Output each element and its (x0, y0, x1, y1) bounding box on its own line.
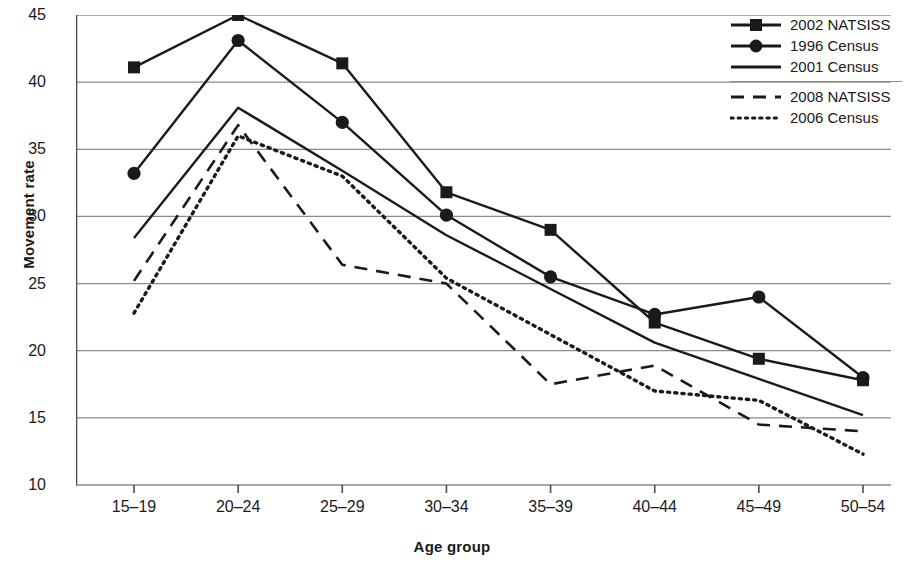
x-axis-tick-label: 40–44 (610, 498, 700, 516)
data-point-marker (128, 61, 140, 73)
data-point-marker (232, 15, 244, 21)
legend-label: 2008 NATSISS (790, 88, 891, 105)
data-point-marker (753, 353, 765, 365)
legend-item[interactable]: 2002 NATSISS (730, 14, 902, 35)
data-point-marker (232, 34, 245, 47)
x-axis-tick-label: 35–39 (506, 498, 596, 516)
y-axis-tick-label: 40 (4, 73, 46, 91)
data-point-marker (752, 290, 765, 303)
data-point-marker (336, 116, 349, 129)
legend-swatch-icon (730, 60, 782, 74)
x-axis-tick-label: 30–34 (401, 498, 491, 516)
x-axis-title: Age group (0, 538, 904, 555)
legend-swatch-icon (730, 18, 782, 32)
series-2008-natsiss (134, 125, 863, 431)
legend-item[interactable]: 2006 Census (730, 107, 902, 128)
legend-swatch-icon (730, 111, 782, 125)
data-point-marker (856, 371, 869, 384)
data-point-marker (545, 224, 557, 236)
data-point-marker (440, 208, 453, 221)
series-2001-census (134, 108, 863, 416)
y-axis-tick-label: 35 (4, 140, 46, 158)
y-axis-tick-label: 15 (4, 409, 46, 427)
data-point-marker (544, 270, 557, 283)
legend-label: 2002 NATSISS (790, 16, 891, 33)
chart-figure: Movement rate 4540353025201510 15–1920–2… (0, 0, 904, 572)
x-axis-tick-label: 25–29 (297, 498, 387, 516)
y-axis-tick-label: 10 (4, 476, 46, 494)
legend: 2002 NATSISS1996 Census2001 Census2008 N… (730, 14, 902, 128)
y-axis-tick-label: 30 (4, 207, 46, 225)
legend-label: 2006 Census (790, 109, 878, 126)
data-point-marker (440, 186, 452, 198)
series-line (134, 125, 863, 431)
data-point-marker (127, 167, 140, 180)
x-axis-tick-label: 50–54 (818, 498, 904, 516)
x-axis-tick-label: 15–19 (89, 498, 179, 516)
legend-label: 2001 Census (790, 58, 878, 75)
y-axis-tick-label: 45 (4, 6, 46, 24)
data-point-marker (336, 57, 348, 69)
legend-item[interactable]: 2008 NATSISS (730, 86, 902, 107)
series-line (134, 108, 863, 416)
y-axis-tick-label: 25 (4, 275, 46, 293)
legend-marker (750, 19, 762, 31)
data-point-marker (648, 308, 661, 321)
legend-item[interactable]: 1996 Census (730, 35, 902, 56)
legend-divider (730, 81, 902, 82)
legend-marker (750, 39, 763, 52)
legend-item[interactable]: 2001 Census (730, 56, 902, 77)
y-axis-tick-labels: 4540353025201510 (0, 0, 46, 572)
x-axis-tick-label: 20–24 (193, 498, 283, 516)
x-axis-tick-label: 45–49 (714, 498, 804, 516)
legend-label: 1996 Census (790, 37, 878, 54)
legend-swatch-icon (730, 39, 782, 53)
legend-swatch-icon (730, 90, 782, 104)
y-axis-tick-label: 20 (4, 342, 46, 360)
